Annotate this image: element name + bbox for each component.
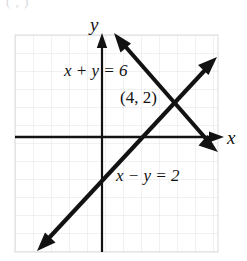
equation-label-difference: x − y = 2 (116, 167, 180, 184)
coordinate-graph-figure: ( , ) (0, 0, 247, 261)
x-axis-label: x (227, 128, 235, 147)
intersection-point-label: (4, 2) (120, 89, 157, 106)
y-axis-label: y (90, 15, 98, 34)
graph-canvas (0, 0, 247, 261)
equation-label-sum: x + y = 6 (64, 62, 128, 79)
